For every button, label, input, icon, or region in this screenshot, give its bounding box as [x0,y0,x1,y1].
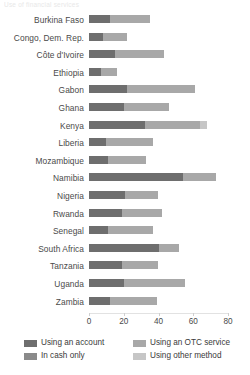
bar-segment [89,138,106,146]
chart-row: Ghana [0,103,250,121]
bar-segment [89,244,159,252]
legend-label: Using other method [150,350,221,362]
bar-segment [89,209,122,217]
bar-segment [101,68,117,76]
bar-segment [89,191,125,199]
bar-segment [200,121,207,129]
legend-label: Using an account [41,337,104,349]
bar-segment [89,103,124,111]
chart-row: Burkina Faso [0,15,250,33]
chart-legend: Using an accountIn cash onlyUsing an OTC… [0,337,250,367]
chart-row: Ethiopia [0,68,250,86]
chart-row: South Africa [0,244,250,262]
bar-segment [115,50,164,58]
bar-segment [108,156,146,164]
bar-segment [89,68,101,76]
category-label: Burkina Faso [0,15,84,25]
bar-segment [103,33,127,41]
axis-tick [89,313,90,316]
axis-tick-label: 0 [77,317,101,327]
category-label: Namibia [0,173,84,183]
bar-segment [124,103,169,111]
axis-tick [228,313,229,316]
bar-segment [125,191,158,199]
chart-row: Rwanda [0,209,250,227]
category-label: Uganda [0,279,84,289]
axis-tick [193,313,194,316]
bar-segment [159,244,180,252]
bar-segment [127,85,195,93]
axis-tick-label: 40 [147,317,171,327]
legend-swatch [133,340,146,347]
bar-segment [122,261,158,269]
chart-row: Kenya [0,121,250,139]
category-label: Mozambique [0,156,84,166]
legend-label: Using an OTC service [150,337,230,349]
chart-row: Uganda [0,279,250,297]
bar-segment [89,15,110,23]
legend-swatch [24,353,37,360]
category-label: Zambia [0,297,84,307]
bar-segment [106,138,153,146]
category-label: Kenya [0,121,84,131]
axis-tick-label: 80 [216,317,240,327]
axis-tick [124,313,125,316]
category-label: Senegal [0,226,84,236]
bar-segment [110,297,157,305]
bar-segment [145,121,201,129]
chart-title: Use of financial services [4,0,154,9]
chart-row: Gabon [0,85,250,103]
chart-row: Nigeria [0,191,250,209]
chart-row: Mozambique [0,156,250,174]
chart-row: Namibia [0,173,250,191]
category-label: Congo, Dem. Rep. [0,33,84,43]
bar-segment [89,226,108,234]
chart-row: Zambia [0,297,250,315]
plot-area: Burkina FasoCongo, Dem. Rep.Côte d'Ivoir… [0,11,250,313]
legend-swatch [133,353,146,360]
chart-row: Côte d'Ivoire [0,50,250,68]
legend-swatch [24,340,37,347]
legend-label: In cash only [41,350,85,362]
bar-segment [110,15,150,23]
bar-segment [89,261,122,269]
bar-segment [89,173,183,181]
axis-tick [159,313,160,316]
chart-row: Senegal [0,226,250,244]
category-label: South Africa [0,244,84,254]
category-label: Tanzania [0,261,84,271]
category-label: Liberia [0,138,84,148]
bar-segment [108,226,153,234]
category-label: Côte d'Ivoire [0,50,84,60]
axis-tick-label: 60 [181,317,205,327]
axis-tick-label: 20 [112,317,136,327]
category-label: Gabon [0,85,84,95]
x-axis: 020406080 [0,313,250,331]
bar-segment [122,209,162,217]
bar-segment [89,297,110,305]
bar-segment [183,173,216,181]
chart-row: Tanzania [0,261,250,279]
bar-segment [89,33,103,41]
category-label: Nigeria [0,191,84,201]
bar-segment [89,156,108,164]
bar-segment [89,85,127,93]
chart-root: Use of financial services Burkina FasoCo… [0,0,250,375]
chart-row: Liberia [0,138,250,156]
bar-segment [89,279,124,287]
category-label: Ethiopia [0,68,84,78]
category-label: Rwanda [0,209,84,219]
bar-segment [89,50,115,58]
bar-segment [89,121,145,129]
bar-segment [124,279,185,287]
category-label: Ghana [0,103,84,113]
chart-row: Congo, Dem. Rep. [0,33,250,51]
